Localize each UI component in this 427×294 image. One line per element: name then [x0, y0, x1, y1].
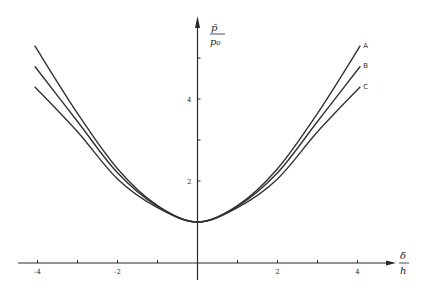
x-label-numerator: δ — [400, 250, 406, 261]
y-axis-label: p̄ p₀ — [210, 22, 225, 47]
y-tick-label: 4 — [187, 96, 192, 104]
x-axis: -4-224 — [18, 260, 396, 276]
x-tick-label: -4 — [34, 268, 41, 276]
curve-label-a: A — [363, 42, 368, 50]
x-tick-label: 4 — [355, 268, 360, 276]
x-axis-arrow-icon — [386, 261, 396, 266]
y-axis-arrow-icon — [195, 16, 200, 28]
curve-label-c: C — [363, 83, 368, 91]
y-axis: 24 — [187, 16, 200, 280]
x-tick-label: -2 — [114, 268, 121, 276]
y-tick-label: 2 — [187, 178, 191, 186]
curve-label-b: B — [363, 62, 368, 70]
curve-labels: ABC — [363, 42, 368, 91]
x-tick-label: 2 — [275, 268, 279, 276]
chart: -4-224 24 δ h p̄ p₀ ABC — [0, 0, 427, 294]
x-axis-label: δ h — [399, 250, 409, 276]
y-label-denominator: p₀ — [210, 36, 220, 47]
y-ticks: 24 — [187, 58, 200, 186]
x-label-denominator: h — [400, 265, 406, 276]
y-label-numerator: p̄ — [211, 22, 218, 33]
